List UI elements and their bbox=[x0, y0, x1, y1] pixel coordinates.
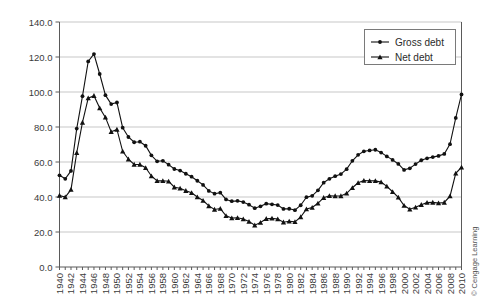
x-tick-label: 1966 bbox=[203, 273, 214, 294]
data-point-marker bbox=[92, 52, 96, 56]
x-tick-label: 1974 bbox=[249, 273, 260, 294]
data-point-marker bbox=[80, 120, 85, 125]
data-point-marker bbox=[253, 206, 257, 210]
x-tick-label: 2004 bbox=[422, 273, 433, 294]
data-point-marker bbox=[396, 162, 400, 166]
data-point-marker bbox=[172, 167, 176, 171]
data-point-marker bbox=[310, 194, 314, 198]
data-point-marker bbox=[316, 188, 320, 192]
data-point-marker bbox=[63, 177, 67, 181]
y-tick-label: 20.0 bbox=[34, 227, 53, 238]
x-tick-label: 1988 bbox=[330, 273, 341, 294]
x-tick-label: 1968 bbox=[215, 273, 226, 294]
y-tick-label: 100.0 bbox=[29, 87, 53, 98]
x-tick-label: 1996 bbox=[376, 273, 387, 294]
data-point-marker bbox=[413, 205, 418, 210]
data-point-marker bbox=[98, 72, 102, 76]
x-tick-label: 2006 bbox=[433, 273, 444, 294]
x-tick-label: 2010 bbox=[456, 273, 467, 294]
data-point-marker bbox=[195, 179, 199, 183]
data-point-marker bbox=[270, 202, 274, 206]
data-point-marker bbox=[109, 102, 113, 106]
x-tick-label: 1990 bbox=[341, 273, 352, 294]
data-point-marker bbox=[460, 93, 464, 97]
data-point-marker bbox=[459, 165, 464, 170]
data-point-marker bbox=[402, 168, 406, 172]
data-point-marker bbox=[241, 200, 245, 204]
data-point-marker bbox=[121, 126, 125, 130]
data-point-marker bbox=[419, 158, 423, 162]
chart-canvas: 0.020.040.060.080.0100.0120.0140.0 19401… bbox=[0, 0, 486, 303]
data-point-marker bbox=[143, 165, 148, 170]
y-tick-label: 60.0 bbox=[34, 157, 53, 168]
data-point-marker bbox=[408, 166, 412, 170]
x-tick-label: 1980 bbox=[284, 273, 295, 294]
x-tick-label: 1986 bbox=[318, 273, 329, 294]
x-axis-tick-labels: 1940194219441946194819501952195419561958… bbox=[54, 273, 467, 294]
data-point-marker bbox=[230, 199, 234, 203]
data-point-marker bbox=[373, 148, 377, 152]
copyright-credit: © Cengage Learning bbox=[470, 227, 479, 296]
data-point-marker bbox=[448, 142, 452, 146]
data-point-marker bbox=[252, 223, 257, 228]
data-point-marker bbox=[339, 172, 343, 176]
data-point-marker bbox=[127, 135, 131, 139]
x-tick-label: 1940 bbox=[54, 273, 65, 294]
data-point-marker bbox=[144, 144, 148, 148]
credit-label: © Cengage Learning bbox=[470, 227, 479, 296]
x-tick-label: 1948 bbox=[100, 273, 111, 294]
data-point-marker bbox=[149, 153, 153, 157]
data-point-marker bbox=[276, 203, 280, 207]
x-tick-label: 1944 bbox=[77, 273, 88, 294]
data-point-marker bbox=[328, 177, 332, 181]
data-point-marker bbox=[259, 204, 263, 208]
chart-legend: Gross debtNet debt bbox=[365, 30, 456, 65]
data-point-marker bbox=[213, 192, 217, 196]
x-tick-label: 1994 bbox=[364, 273, 375, 294]
x-tick-label: 1962 bbox=[180, 273, 191, 294]
y-tick-label: 140.0 bbox=[29, 17, 53, 28]
x-tick-label: 1950 bbox=[111, 273, 122, 294]
data-point-marker bbox=[161, 159, 165, 163]
legend-entry-label: Gross debt bbox=[395, 37, 444, 48]
x-tick-label: 2008 bbox=[445, 273, 456, 294]
data-point-marker bbox=[57, 193, 62, 198]
data-point-marker bbox=[75, 127, 79, 131]
data-point-marker bbox=[97, 106, 102, 111]
data-point-marker bbox=[356, 153, 360, 157]
series-gross-debt bbox=[58, 52, 464, 212]
y-tick-label: 40.0 bbox=[34, 192, 53, 203]
data-point-marker bbox=[247, 203, 251, 207]
data-point-marker bbox=[115, 101, 119, 105]
data-point-marker bbox=[287, 207, 291, 211]
y-axis-ticks bbox=[56, 22, 60, 267]
legend-entry-label: Net debt bbox=[395, 52, 433, 63]
data-point-marker bbox=[184, 172, 188, 176]
data-point-marker bbox=[350, 159, 354, 163]
data-point-marker bbox=[391, 158, 395, 162]
data-point-marker bbox=[114, 127, 119, 132]
data-point-marker bbox=[437, 154, 441, 158]
data-point-marker bbox=[224, 198, 228, 202]
data-point-marker bbox=[305, 195, 309, 199]
data-point-marker bbox=[282, 207, 286, 211]
x-tick-label: 1954 bbox=[134, 273, 145, 294]
data-point-marker bbox=[362, 149, 366, 153]
data-point-marker bbox=[207, 189, 211, 193]
data-point-marker bbox=[431, 155, 435, 159]
data-point-marker bbox=[236, 199, 240, 203]
data-point-marker bbox=[333, 174, 337, 178]
x-tick-label: 1960 bbox=[169, 273, 180, 294]
x-tick-label: 1998 bbox=[387, 273, 398, 294]
data-point-marker bbox=[447, 194, 452, 199]
data-point-marker bbox=[293, 208, 297, 212]
x-tick-label: 1942 bbox=[65, 273, 76, 294]
data-point-marker bbox=[218, 191, 222, 195]
data-point-marker bbox=[190, 175, 194, 179]
x-tick-label: 2002 bbox=[410, 273, 421, 294]
data-point-marker bbox=[132, 140, 136, 144]
x-tick-label: 1992 bbox=[353, 273, 364, 294]
y-axis-tick-labels: 0.020.040.060.080.0100.0120.0140.0 bbox=[29, 17, 53, 273]
data-point-marker bbox=[103, 115, 108, 120]
data-point-marker bbox=[425, 156, 429, 160]
